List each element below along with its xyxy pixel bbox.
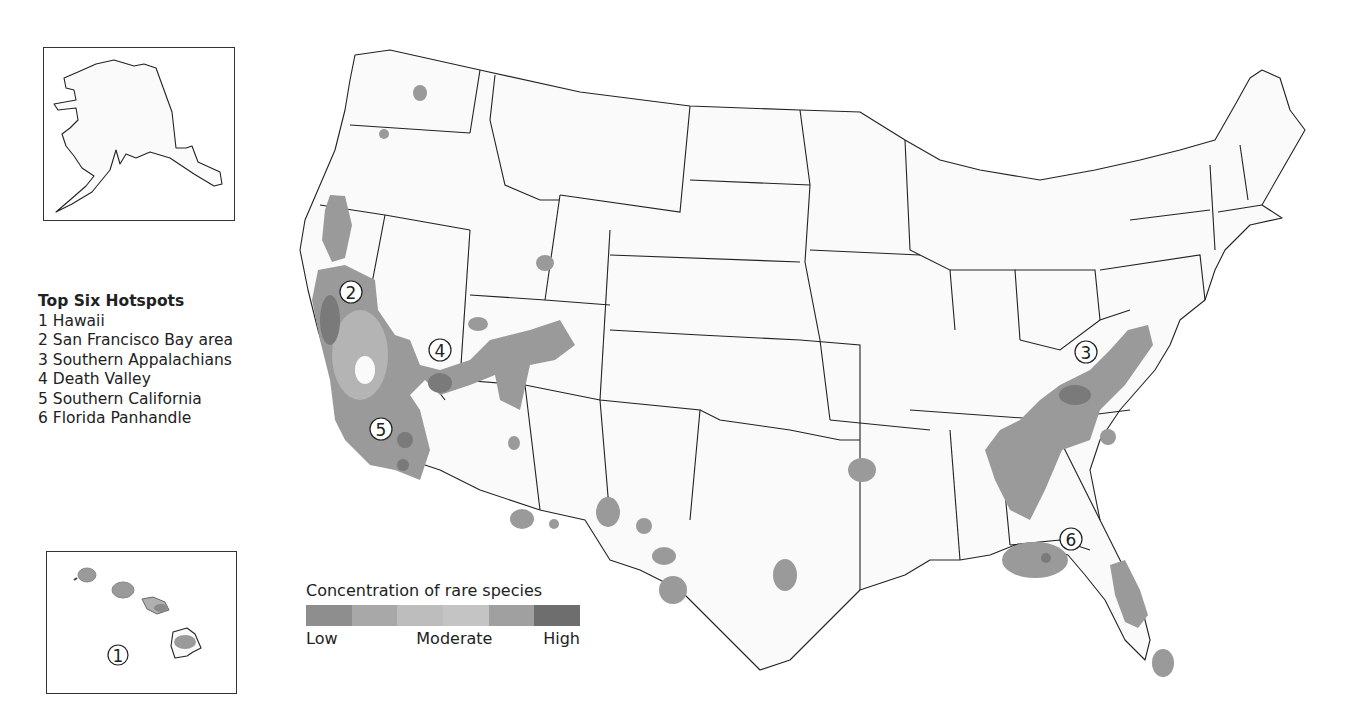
hotspot-marker-5: 5 <box>370 418 392 440</box>
scale-swatch-6 <box>534 605 580 626</box>
hotspot-marker-4: 4 <box>429 339 451 361</box>
hotspot-marker-2: 2 <box>340 281 362 303</box>
scale-swatch-3 <box>397 605 443 626</box>
svg-text:3: 3 <box>1081 343 1092 363</box>
hotspot-marker-1: 1 <box>108 645 128 666</box>
hawaii-island-oahu <box>112 582 134 598</box>
scale-label-high: High <box>543 629 580 648</box>
hotspot-item-sf-bay: 2 San Francisco Bay area <box>38 331 233 351</box>
alaska-map <box>44 48 234 220</box>
concentration-scale-bar <box>306 605 580 626</box>
scale-swatch-2 <box>352 605 398 626</box>
hotspot-item-florida-panhandle: 6 Florida Panhandle <box>38 409 233 429</box>
hotspot-item-hawaii: 1 Hawaii <box>38 312 233 332</box>
svg-text:5: 5 <box>376 420 387 440</box>
hotspot-item-socal: 5 Southern California <box>38 390 233 410</box>
scale-label-moderate: Moderate <box>416 629 492 648</box>
svg-text:1: 1 <box>113 646 124 666</box>
svg-text:6: 6 <box>1066 530 1077 550</box>
scale-swatch-4 <box>443 605 489 626</box>
hotspot-marker-6: 6 <box>1060 528 1082 550</box>
svg-text:2: 2 <box>346 283 357 303</box>
us-outline <box>300 50 1305 670</box>
hotspot-legend: Top Six Hotspots 1 Hawaii 2 San Francisc… <box>38 292 233 429</box>
hawaii-island-kauai <box>78 568 96 582</box>
scale-swatch-1 <box>306 605 352 626</box>
alaska-inset <box>43 47 235 221</box>
hotspot-marker-3: 3 <box>1075 341 1097 363</box>
scale-swatch-5 <box>489 605 535 626</box>
hotspot-item-appalachians: 3 Southern Appalachians <box>38 351 233 371</box>
concentration-legend-title: Concentration of rare species <box>306 581 580 600</box>
concentration-legend: Concentration of rare species Low Modera… <box>306 581 580 648</box>
state-borders <box>320 70 1262 590</box>
hotspot-legend-title: Top Six Hotspots <box>38 292 233 312</box>
svg-text:4: 4 <box>435 341 446 361</box>
hotspot-item-death-valley: 4 Death Valley <box>38 370 233 390</box>
hawaii-map: 1 <box>47 552 236 693</box>
hawaii-inset: 1 <box>46 551 237 694</box>
scale-label-low: Low <box>306 629 338 648</box>
